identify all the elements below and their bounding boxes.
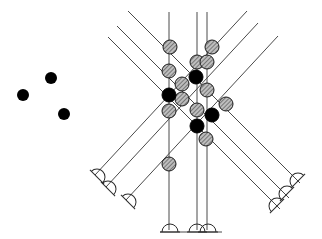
support-left-3-base	[121, 195, 135, 209]
figure-root	[0, 0, 322, 239]
joint-hatched-1	[163, 40, 177, 54]
support-left-1-base	[90, 170, 104, 184]
support-left-3	[121, 189, 141, 209]
joint-hatched-13	[162, 157, 176, 171]
support-left-2	[101, 176, 121, 196]
joint-hatched-12	[199, 132, 213, 146]
joint-hatched-7	[200, 83, 214, 97]
joint-hatched-5	[162, 64, 176, 78]
joint-hatched-11	[219, 97, 233, 111]
joint-hatched-8	[175, 92, 189, 106]
joint-hatched-4	[200, 55, 214, 69]
joint-hatched-6	[175, 77, 189, 91]
truss-diagram-svg	[0, 0, 322, 239]
joint-filled-4	[190, 119, 204, 133]
legend-dot-node-c	[58, 108, 70, 120]
diagonal-dr-1	[128, 11, 300, 183]
legend-dot-node-a	[45, 72, 57, 84]
support-base-left	[160, 224, 180, 232]
joint-filled-3	[205, 108, 219, 122]
support-base-left-dome	[162, 224, 178, 232]
support-left-2-base	[101, 182, 115, 196]
legend-dot-node-b	[17, 89, 29, 101]
joint-hatched-10	[190, 103, 204, 117]
joint-filled-1	[189, 70, 203, 84]
support-base-right-dome	[200, 224, 216, 232]
joint-hatched-9	[162, 104, 176, 118]
legend-layer	[17, 72, 70, 120]
joint-hatched-2	[205, 40, 219, 54]
joint-filled-2	[162, 88, 176, 102]
support-right-2-base	[280, 187, 294, 201]
